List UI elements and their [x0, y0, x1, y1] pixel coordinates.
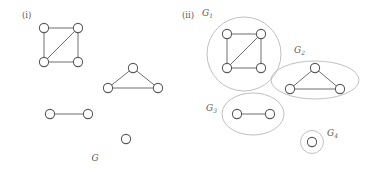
component-triangle	[103, 63, 162, 92]
label-g1-base: G	[202, 8, 209, 18]
panel-i-label: (i)	[22, 10, 31, 20]
vertex-a3	[39, 57, 48, 66]
label-g4-base: G	[327, 128, 334, 138]
component-single-edge	[45, 109, 92, 118]
component-g1: G1	[202, 8, 281, 91]
vertex-g1-a2	[256, 29, 265, 38]
panel-i-group: (i) G	[22, 10, 163, 163]
component-g4: G4	[301, 128, 339, 154]
vertex-d1	[121, 134, 130, 143]
panel-ii-label: (ii)	[182, 10, 194, 20]
label-g3: G3	[206, 103, 217, 114]
vertex-g4-d1	[307, 137, 316, 146]
vertex-a4	[73, 57, 82, 66]
vertex-b1	[128, 63, 137, 72]
component-isolated-vertex	[121, 134, 130, 143]
vertex-a1	[39, 23, 48, 32]
label-g1: G1	[202, 8, 213, 19]
vertex-g2-b1	[310, 63, 319, 72]
label-g4-subscript: 4	[333, 132, 338, 139]
label-g2: G2	[294, 45, 305, 56]
graph-g-caption: G	[91, 153, 98, 163]
enclosure-g1	[207, 17, 281, 91]
figure-canvas: (i) G (ii) G1	[0, 0, 377, 172]
component-g2: G2	[271, 45, 359, 99]
panel-ii-group: (ii) G1	[182, 8, 359, 154]
vertex-a2	[73, 23, 82, 32]
component-square-with-diagonal	[39, 23, 82, 66]
vertex-g2-b3	[335, 84, 344, 93]
vertex-b2	[103, 83, 112, 92]
vertex-g2-b2	[285, 84, 294, 93]
label-g2-base: G	[294, 45, 301, 55]
vertex-c1	[45, 109, 54, 118]
label-g4: G4	[327, 128, 338, 139]
vertex-g3-c1	[232, 109, 241, 118]
label-g1-subscript: 1	[209, 12, 213, 19]
label-g3-base: G	[206, 103, 213, 113]
vertex-g1-a1	[222, 29, 231, 38]
label-g3-subscript: 3	[213, 107, 217, 114]
edge-a3-a2-diagonal	[44, 28, 78, 62]
vertex-c2	[83, 109, 92, 118]
vertex-g1-a4	[256, 63, 265, 72]
graph-figure-svg: (i) G (ii) G1	[0, 0, 377, 172]
edge-g1-a3-a2-diagonal	[227, 34, 261, 68]
vertex-b3	[153, 83, 162, 92]
label-g2-subscript: 2	[300, 49, 305, 56]
component-g3: G3	[206, 93, 284, 135]
vertex-g3-c2	[265, 109, 274, 118]
vertex-g1-a3	[222, 63, 231, 72]
